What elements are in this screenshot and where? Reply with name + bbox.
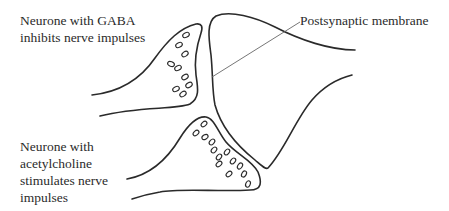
acetylcholine-neurone-label: Neurone with acetylcholine stimulates ne…	[20, 138, 108, 206]
vesicle	[174, 64, 182, 71]
postsynaptic-pointer-line	[212, 22, 300, 77]
vesicle	[175, 41, 183, 48]
ach-label-line-4: impulses	[20, 189, 108, 206]
gaba-label-line-1: Neurone with GABA	[20, 12, 145, 29]
postsynaptic-outline	[209, 14, 355, 169]
vesicle	[240, 170, 247, 178]
vesicle	[245, 180, 252, 188]
gaba-neurone-label: Neurone with GABA inhibits nerve impulse…	[20, 12, 145, 46]
vesicle	[167, 61, 175, 68]
vesicle	[223, 148, 231, 156]
vesicle	[215, 153, 223, 161]
acetylcholine-vesicles	[192, 120, 251, 188]
vesicle	[229, 157, 237, 165]
vesicle	[182, 31, 190, 38]
gaba-vesicles	[167, 31, 193, 97]
vesicle	[179, 90, 187, 98]
postsynaptic-label-text: Postsynaptic membrane	[300, 12, 429, 29]
vesicle	[208, 138, 216, 146]
postsynaptic-membrane-label: Postsynaptic membrane	[300, 12, 429, 29]
acetylcholine-terminal-outline	[127, 117, 260, 199]
gaba-label-line-2: inhibits nerve impulses	[20, 29, 145, 46]
vesicle	[201, 133, 209, 140]
vesicle	[225, 170, 233, 178]
vesicle	[185, 81, 193, 88]
ach-label-line-3: stimulates nerve	[20, 172, 108, 189]
vesicle	[181, 50, 189, 58]
vesicle	[172, 85, 180, 92]
vesicle	[181, 73, 189, 80]
vesicle	[210, 146, 218, 154]
vesicle	[215, 160, 223, 168]
ach-label-line-2: acetylcholine	[20, 155, 108, 172]
ach-label-line-1: Neurone with	[20, 138, 108, 155]
synapse-diagram: Neurone with GABA inhibits nerve impulse…	[0, 0, 449, 211]
vesicle	[192, 129, 200, 137]
vesicle	[236, 162, 243, 170]
vesicle	[200, 120, 208, 128]
